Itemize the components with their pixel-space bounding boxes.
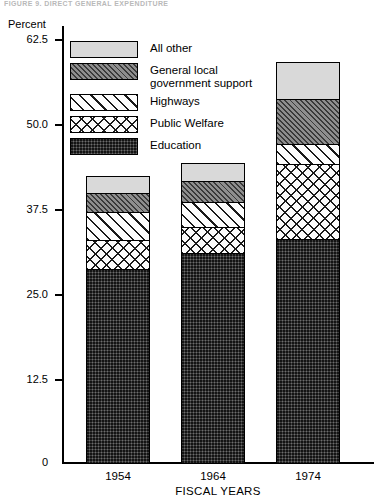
legend-swatch-education	[70, 138, 138, 155]
bar-1954	[86, 176, 150, 462]
legend-label-all-other: All other	[150, 41, 192, 55]
bar-1964	[181, 163, 245, 462]
y-tick-25_0	[55, 294, 63, 296]
segment-public-welfare	[87, 241, 149, 270]
x-tick-label-1954: 1954	[86, 470, 150, 482]
legend-label-education: Education	[150, 138, 201, 152]
segment-all-other	[277, 63, 339, 100]
segment-general-local-government-support	[87, 194, 149, 213]
legend-item-public-welfare: Public Welfare	[70, 116, 252, 133]
cut-off-header-text: FIGURE 9. DIRECT GENERAL EXPENDITURE	[4, 0, 168, 6]
y-tick-label-12_5: 12.5	[4, 374, 48, 385]
segment-all-other	[87, 177, 149, 195]
segment-education	[182, 254, 244, 463]
legend-swatch-all-other	[70, 41, 138, 58]
x-tick-label-1974: 1974	[276, 470, 340, 482]
y-tick-62_5	[55, 39, 63, 41]
segment-highways	[182, 203, 244, 228]
segment-all-other	[182, 164, 244, 182]
segment-public-welfare	[182, 228, 244, 254]
y-tick-label-37_5: 37.5	[4, 204, 48, 215]
legend-swatch-highways	[70, 94, 138, 111]
legend: All other General local government suppo…	[70, 41, 252, 160]
x-tick-label-1964: 1964	[181, 470, 245, 482]
y-tick-12_5	[55, 379, 63, 381]
segment-general-local-government-support	[182, 182, 244, 203]
legend-item-general-local-government-support: General local government support	[70, 63, 252, 89]
legend-label-public-welfare: Public Welfare	[150, 116, 224, 130]
segment-education	[277, 240, 339, 463]
segment-general-local-government-support	[277, 100, 339, 145]
legend-label-general-local-government-support: General local government support	[150, 63, 252, 89]
chart-root: FIGURE 9. DIRECT GENERAL EXPENDITURE Per…	[0, 0, 384, 499]
y-tick-label-25_0: 25.0	[4, 289, 48, 300]
y-axis-line	[62, 26, 64, 464]
y-axis-title: Percent	[8, 18, 46, 30]
legend-label-highways: Highways	[150, 94, 200, 108]
segment-public-welfare	[277, 165, 339, 239]
y-tick-label-50_0: 50.0	[4, 119, 48, 130]
segment-highways	[87, 213, 149, 241]
segment-highways	[277, 145, 339, 165]
legend-item-education: Education	[70, 138, 252, 155]
bar-1974	[276, 62, 340, 462]
y-tick-50_0	[55, 124, 63, 126]
x-axis-title: FISCAL YEARS	[62, 485, 374, 497]
legend-swatch-general-local-government-support	[70, 63, 138, 80]
y-tick-37_5	[55, 209, 63, 211]
y-tick-label-0: 0	[4, 457, 48, 468]
legend-item-highways: Highways	[70, 94, 252, 111]
legend-item-all-other: All other	[70, 41, 252, 58]
segment-education	[87, 270, 149, 463]
legend-swatch-public-welfare	[70, 116, 138, 133]
y-tick-label-62_5: 62.5	[4, 34, 48, 45]
